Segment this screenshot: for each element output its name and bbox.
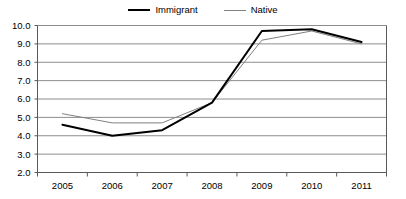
- y-tick-label: 8.0: [17, 57, 30, 68]
- plot-area: 10.09.08.07.06.05.04.03.02.0 20052006200…: [0, 0, 406, 199]
- line-chart: Immigrant Native 10.09.08.07.06.05.04.03…: [0, 0, 406, 199]
- data-series: [62, 29, 361, 136]
- y-tick-label: 5.0: [17, 112, 30, 123]
- x-axis-tick-labels: 2005200620072008200920102011: [52, 180, 372, 191]
- y-tick-label: 2.0: [17, 167, 30, 178]
- grid-lines: [38, 26, 387, 173]
- y-tick-label: 10.0: [12, 20, 31, 31]
- series-line-native: [62, 31, 361, 123]
- y-tick-label: 3.0: [17, 149, 30, 160]
- x-tick-label: 2006: [102, 180, 123, 191]
- y-tick-label: 6.0: [17, 93, 30, 104]
- series-line-immigrant: [62, 29, 361, 136]
- x-tick-label: 2011: [351, 180, 371, 191]
- y-tick-label: 7.0: [17, 75, 30, 86]
- x-tick-label: 2005: [52, 180, 73, 191]
- x-tick-label: 2010: [301, 180, 322, 191]
- x-axis-tick-marks: [38, 173, 387, 177]
- y-tick-label: 4.0: [17, 130, 30, 141]
- y-tick-label: 9.0: [17, 38, 30, 49]
- y-axis-tick-labels: 10.09.08.07.06.05.04.03.02.0: [12, 20, 31, 178]
- x-tick-label: 2009: [251, 180, 272, 191]
- x-tick-label: 2007: [152, 180, 173, 191]
- x-tick-label: 2008: [201, 180, 222, 191]
